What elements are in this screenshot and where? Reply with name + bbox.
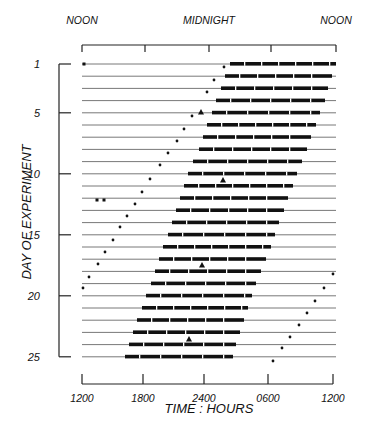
x-tick-label: 0600 — [256, 392, 280, 404]
bar-gap — [253, 135, 254, 139]
phase-dot — [298, 324, 301, 327]
bar-gap — [270, 147, 271, 151]
phase-dot — [97, 263, 100, 266]
top-time-labels: NOONMIDNIGHTNOON — [66, 14, 352, 26]
activity-bar — [225, 74, 332, 78]
activity-bar — [146, 294, 252, 298]
bar-gap — [329, 62, 330, 66]
bar-gap — [226, 220, 227, 224]
triangle-marker — [198, 109, 204, 115]
bar-gap — [183, 342, 184, 346]
bar-gap — [257, 74, 258, 78]
bar-gap — [275, 74, 276, 78]
bar-gap — [204, 330, 205, 334]
bar-gap — [241, 306, 242, 310]
phase-dot — [213, 79, 216, 82]
bar-gap — [312, 62, 313, 66]
activity-bar — [180, 196, 288, 200]
bar-gap — [163, 342, 164, 346]
bar-gap — [206, 220, 207, 224]
phase-dot — [314, 300, 317, 303]
bar-gap — [270, 98, 271, 102]
bar-gap — [235, 135, 236, 139]
bar-gap — [254, 86, 255, 90]
bar-gap — [230, 98, 231, 102]
phase-dot — [191, 115, 194, 118]
bar-gap — [151, 318, 152, 322]
phase-dot — [119, 226, 122, 229]
bar-gap — [246, 220, 247, 224]
bar-gap — [194, 196, 195, 200]
bar-gap — [215, 184, 216, 188]
bar-gap — [271, 135, 272, 139]
bar-gap — [228, 245, 229, 249]
bar-gap — [186, 220, 187, 224]
x-tick-label: 1800 — [131, 392, 155, 404]
bar-gap — [202, 172, 203, 176]
phase-dot — [223, 66, 226, 69]
bar-gap — [248, 196, 249, 200]
bar-gap — [249, 184, 250, 188]
activity-bar — [159, 257, 266, 261]
bar-gap — [209, 208, 210, 212]
activity-bar — [163, 245, 271, 249]
bar-gap — [262, 245, 263, 249]
y-tick-label: 1 — [34, 58, 40, 70]
actogram-chart: NOONMIDNIGHTNOON 1510152025 120018002400… — [0, 0, 368, 443]
bar-gap — [205, 281, 206, 285]
bar-gap — [156, 306, 157, 310]
bar-gap — [227, 159, 228, 163]
phase-dot — [206, 91, 209, 94]
activity-bar — [137, 318, 244, 322]
bar-gap — [286, 172, 287, 176]
activity-bar — [129, 343, 236, 347]
bar-gap — [225, 281, 226, 285]
phase-dot — [167, 152, 170, 155]
bar-gap — [251, 147, 252, 151]
phase-dot — [134, 203, 137, 206]
bar-gap — [181, 355, 182, 359]
phase-dot — [104, 251, 107, 254]
bar-gap — [212, 196, 213, 200]
activity-bar — [168, 233, 275, 237]
bar-gap — [230, 196, 231, 200]
bar-gap — [311, 74, 312, 78]
bar-gap — [265, 172, 266, 176]
x-tick-label: 1200 — [70, 392, 94, 404]
bar-gap — [147, 330, 148, 334]
bar-gap — [165, 281, 166, 285]
bar-gap — [190, 208, 191, 212]
bar-gap — [310, 111, 311, 115]
bar-gap — [238, 123, 239, 127]
bar-gap — [207, 159, 208, 163]
small-mark — [83, 63, 86, 66]
activity-bar — [230, 62, 336, 66]
bar-gap — [223, 355, 224, 359]
bar-gap — [266, 220, 267, 224]
phase-dot — [82, 287, 85, 290]
bar-gap — [232, 184, 233, 188]
phase-dot — [112, 239, 115, 242]
bar-gap — [245, 269, 246, 273]
bar-gap — [244, 172, 245, 176]
bar-gap — [223, 318, 224, 322]
bar-gap — [202, 294, 203, 298]
bar-gap — [227, 257, 228, 261]
bar-gap — [203, 233, 204, 237]
triangle-marker — [186, 336, 192, 342]
bar-gap — [160, 355, 161, 359]
bar-gap — [143, 342, 144, 346]
bar-gap — [245, 257, 246, 261]
bar-gap — [226, 111, 227, 115]
bar-gap — [289, 135, 290, 139]
bar-gap — [244, 62, 245, 66]
bar-gap — [292, 86, 293, 90]
phase-dots — [82, 63, 335, 363]
phase-dot — [272, 360, 275, 363]
bar-gap — [250, 98, 251, 102]
bar-gap — [223, 330, 224, 334]
bar-gap — [311, 86, 312, 90]
bar-gap — [272, 123, 273, 127]
bar-gap — [273, 86, 274, 90]
bar-gap — [185, 281, 186, 285]
